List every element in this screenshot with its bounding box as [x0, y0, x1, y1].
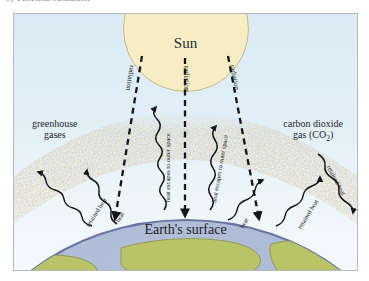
- carbon-dioxide-label-line2-post: ): [330, 129, 333, 140]
- thermal-radiation-diagram: Sun: [13, 13, 358, 271]
- radiation-label-center: radiation: [182, 66, 190, 92]
- carbon-dioxide-label: carbon dioxide gas (CO2): [283, 118, 343, 144]
- escape-label-left: heat escapes to outer space: [164, 133, 171, 202]
- greenhouse-gases-label-line1: greenhouse: [32, 118, 78, 129]
- retained-heat-arrow-1: [38, 172, 92, 226]
- carbon-dioxide-label-line1: carbon dioxide: [283, 118, 343, 129]
- greenhouse-gases-label: greenhouse gases: [32, 118, 78, 140]
- greenhouse-gases-label-line2: gases: [44, 129, 66, 140]
- figure-caption: c) Thermal radiation: [6, 0, 90, 3]
- carbon-dioxide-label-line2-pre: gas (CO: [293, 129, 326, 140]
